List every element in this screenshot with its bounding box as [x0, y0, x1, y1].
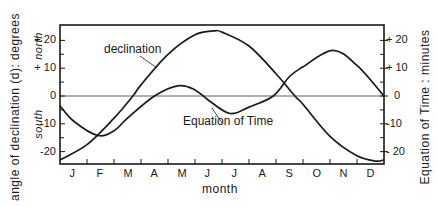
month-label: F — [97, 167, 104, 179]
declination-leader-line — [140, 56, 157, 68]
x-axis-label: month — [202, 182, 238, 196]
left-axis-north-label: north — [32, 26, 44, 66]
left-tick-label: + 10 — [34, 61, 56, 73]
right-tick-label: + 20 — [386, 33, 408, 45]
month-label: J — [70, 167, 76, 179]
right-tick-label: 0 — [394, 89, 400, 101]
left-tick-label: -20 — [40, 145, 56, 157]
month-label: D — [367, 167, 375, 179]
month-label: M — [124, 167, 133, 179]
right-tick-label: -10 — [386, 117, 402, 129]
month-label: A — [259, 167, 266, 179]
right-tick-label: - 20 — [386, 145, 405, 157]
left-tick-label: + 20 — [34, 33, 56, 45]
month-label: N — [340, 167, 348, 179]
left-tick-label: 0 — [50, 89, 56, 101]
right-tick-label: + 10 — [386, 61, 408, 73]
month-label: O — [313, 167, 322, 179]
eot-annotation: Equation of Time — [183, 114, 273, 128]
left-tick-label: -10 — [40, 117, 56, 129]
month-label: J — [205, 167, 211, 179]
right-axis-label: Equation of Time : minutes — [418, 22, 432, 192]
month-label: A — [151, 167, 158, 179]
month-label: M — [178, 167, 187, 179]
month-label: J — [232, 167, 238, 179]
month-label: S — [286, 167, 293, 179]
declination-annotation: declination — [104, 42, 161, 56]
left-axis-label: angle of declination (d): degrees — [8, 12, 22, 202]
